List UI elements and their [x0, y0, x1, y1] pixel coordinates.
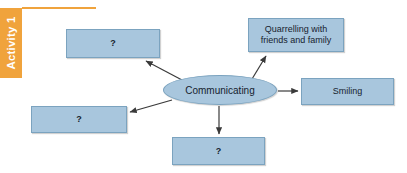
node-bottom-left[interactable]: ? [31, 106, 127, 133]
node-bottom-left-label: ? [76, 114, 82, 125]
node-bottom-center-label: ? [216, 146, 222, 157]
arrow-to-quarrelling [252, 56, 266, 79]
activity-diagram-page: Activity 1 ? Quarrelling with friends an… [0, 0, 407, 173]
arrow-to-bottom-left [130, 100, 172, 112]
node-top-left-label: ? [110, 38, 116, 49]
arrow-to-top-left [146, 61, 182, 80]
node-center-communicating[interactable]: Communicating [163, 75, 277, 105]
node-smiling-label: Smiling [333, 86, 363, 97]
node-quarrelling-label: Quarrelling with friends and family [252, 24, 340, 46]
node-bottom-center[interactable]: ? [172, 137, 265, 165]
node-center-label: Communicating [185, 85, 254, 96]
node-smiling[interactable]: Smiling [301, 78, 394, 105]
node-quarrelling[interactable]: Quarrelling with friends and family [248, 18, 344, 52]
node-top-left[interactable]: ? [66, 29, 160, 58]
